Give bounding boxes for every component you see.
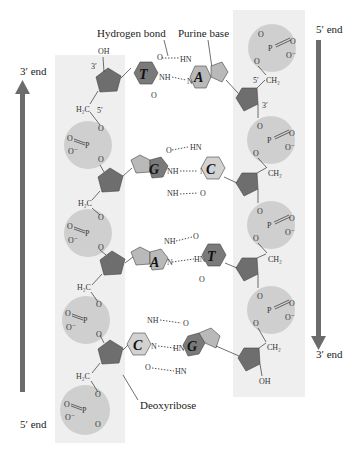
svg-text:O: O [64,400,70,409]
deoxyribose-leader [123,375,138,400]
svg-text:H₂C: H₂C [78,199,92,208]
svg-text:O: O [65,309,71,318]
svg-text:O: O [193,232,199,241]
svg-text:C: C [206,162,216,177]
svg-text:O: O [289,129,295,138]
svg-text:OH: OH [98,47,110,56]
svg-text:3′: 3′ [262,101,268,110]
svg-text:O: O [289,299,295,308]
svg-text:O: O [199,275,205,284]
svg-text:C: C [133,338,143,353]
svg-text:NH: NH [159,73,171,82]
base-pair-1: T O NH O HN N A [121,53,238,100]
svg-text:T: T [207,249,217,264]
svg-text:NH: NH [164,237,176,246]
svg-text:O⁻: O⁻ [68,147,78,156]
deoxyribose-label: Deoxyribose [140,399,196,411]
svg-text:O: O [151,91,157,100]
svg-text:O: O [289,214,295,223]
svg-text:N: N [151,342,157,351]
svg-text:P: P [267,306,272,315]
svg-text:CH₂: CH₂ [268,169,282,178]
svg-text:O⁻: O⁻ [285,228,295,237]
svg-text:5′: 5′ [97,106,103,115]
left-direction-arrow [15,80,30,392]
svg-text:HN: HN [190,143,202,152]
svg-text:5′: 5′ [253,76,259,85]
guanine-ring-5 [131,155,150,173]
svg-text:O: O [254,57,260,66]
svg-text:P: P [267,136,272,145]
svg-text:P: P [82,406,87,415]
right-direction-arrow [311,40,326,350]
svg-text:O: O [253,234,259,243]
hydrogen-bond-label: Hydrogen bond [97,27,166,39]
base-pair-4: C NH N O O HN HN G [123,316,239,376]
svg-text:O⁻: O⁻ [68,236,78,245]
svg-text:O⁻: O⁻ [286,51,296,60]
right-phosphate-2: O P O O⁻ O [247,116,295,164]
left-top-end-label: 3′ end [20,65,47,77]
svg-text:O: O [96,300,102,309]
svg-text:N: N [167,258,173,267]
svg-text:NH: NH [147,316,159,325]
svg-text:O: O [200,189,206,198]
svg-text:T: T [139,67,149,82]
svg-text:A: A [149,255,159,270]
svg-text:O⁻: O⁻ [66,323,76,332]
svg-text:O: O [166,146,172,155]
svg-text:H₂C: H₂C [77,283,91,292]
svg-text:O: O [257,207,263,216]
svg-text:O: O [67,134,73,143]
purine-base-label: Purine base [178,27,229,39]
svg-text:O: O [290,37,296,46]
svg-text:O: O [257,122,263,131]
svg-text:NH: NH [167,189,179,198]
right-top-end-label: 5′ end [316,23,343,35]
svg-text:3′: 3′ [91,62,97,71]
svg-text:O: O [98,155,104,164]
purine-base-leader [208,40,212,68]
svg-text:P: P [267,221,272,230]
svg-text:H₂C: H₂C [76,372,90,381]
adenine-ring-5b [131,247,150,265]
svg-text:O: O [253,149,259,158]
svg-text:O: O [257,292,263,301]
svg-text:P: P [85,229,90,238]
right-phosphate-1: O P O O⁻ O [248,24,296,72]
svg-text:G: G [187,339,197,354]
left-phosphate-3: O P O O O⁻ [62,296,110,344]
svg-text:O: O [253,319,259,328]
dna-diagram: 3′ end 5′ end 5′ end 3′ end Hydrogen bon… [0,0,358,453]
svg-text:O⁻: O⁻ [285,143,295,152]
left-phosphate-2: O P O O O⁻ [64,209,112,257]
svg-text:O: O [145,363,151,372]
svg-text:P: P [83,316,88,325]
adenine-ring-5 [211,62,228,82]
svg-text:O⁻: O⁻ [65,413,75,422]
svg-text:A: A [193,70,203,85]
svg-text:O⁻: O⁻ [285,313,295,322]
svg-text:H₂C: H₂C [76,105,90,114]
right-phosphate-4: O P O O⁻ O [247,286,295,334]
svg-text:O: O [258,30,264,39]
base-pair-3: A NH N O HN T O [125,232,237,284]
svg-text:O: O [67,222,73,231]
left-phosphate-1: O P O O O⁻ [64,121,112,169]
svg-text:HN: HN [180,55,192,64]
right-phosphate-3: O P O O⁻ O [247,201,295,249]
svg-text:CH₂: CH₂ [267,343,281,352]
hydrogen-bond-leader [164,40,168,56]
left-phosphate-4: O P O O O⁻ [60,385,110,435]
svg-text:NH: NH [167,167,179,176]
right-bottom-end-label: 3′ end [316,348,343,360]
svg-text:CH₂: CH₂ [266,76,280,85]
svg-text:HN: HN [175,367,187,376]
svg-text:O: O [98,124,104,133]
svg-text:P: P [268,44,273,53]
svg-text:O: O [95,420,101,429]
svg-text:G: G [149,162,159,177]
svg-text:P: P [85,141,90,150]
svg-text:CH₂: CH₂ [268,255,282,264]
svg-text:OH: OH [259,377,271,386]
